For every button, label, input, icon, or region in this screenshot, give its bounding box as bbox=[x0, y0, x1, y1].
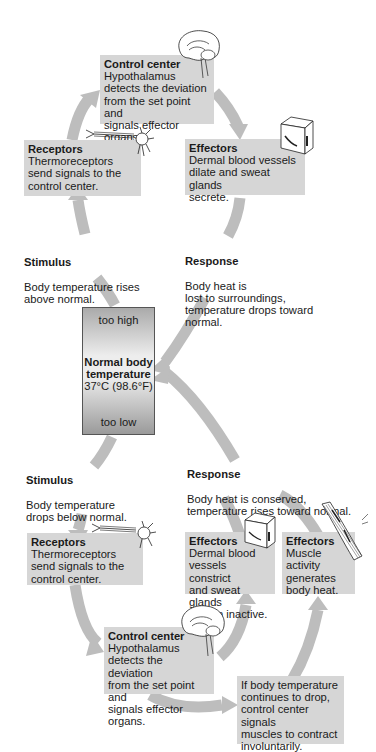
muscle-fiber-icon bbox=[318, 500, 368, 564]
skin-block-icon bbox=[243, 512, 277, 550]
skin-block-icon bbox=[279, 116, 315, 156]
arrow-stimulus-to-receptors-upper bbox=[78, 200, 85, 234]
upper-effectors-body: Dermal blood vessels dilate and sweat gl… bbox=[189, 154, 301, 203]
lower-stimulus-title: Stimulus bbox=[26, 474, 127, 486]
upper-receptors-body: Thermoreceptors send signals to the cont… bbox=[28, 155, 137, 192]
neuron-icon bbox=[90, 520, 156, 550]
thermoregulation-diagram: Control center Hypothalamus detects the … bbox=[0, 0, 376, 752]
normal-temperature-box: too high Normal body temperature 37°C (9… bbox=[82, 307, 155, 435]
upper-stimulus-title: Stimulus bbox=[24, 256, 140, 268]
set-point-value: 37°C (98.6°F) bbox=[84, 380, 153, 392]
arrow-control-to-effectors-upper bbox=[215, 92, 238, 126]
shivering-note-box: If body temperature continues to drop, c… bbox=[237, 676, 344, 744]
brain-icon bbox=[178, 602, 228, 658]
arrow-response-to-normal-lower bbox=[165, 372, 235, 460]
upper-response-body: Body heat is lost to surroundings, tempe… bbox=[185, 280, 313, 329]
arrow-note-to-muscle-effectors bbox=[292, 610, 318, 680]
upper-stimulus-body: Body temperature rises above normal. bbox=[24, 281, 140, 305]
upper-response-title: Response bbox=[185, 255, 313, 267]
set-point-title: Normal body temperature bbox=[83, 356, 154, 380]
arrow-effectors-to-response-upper bbox=[228, 198, 240, 236]
upper-response: Response Body heat is lost to surroundin… bbox=[185, 243, 313, 341]
too-low-label: too low bbox=[83, 416, 154, 428]
lower-receptors-body: Thermoreceptors send signals to the cont… bbox=[31, 548, 139, 585]
arrow-receptors-to-control-lower bbox=[75, 585, 98, 643]
shivering-note-body: If body temperature continues to drop, c… bbox=[241, 679, 340, 752]
lower-response-title: Response bbox=[187, 468, 351, 480]
brain-icon bbox=[175, 28, 223, 80]
neuron-icon bbox=[84, 126, 154, 158]
set-point: Normal body temperature 37°C (98.6°F) bbox=[83, 356, 154, 393]
too-high-label: too high bbox=[83, 314, 154, 326]
